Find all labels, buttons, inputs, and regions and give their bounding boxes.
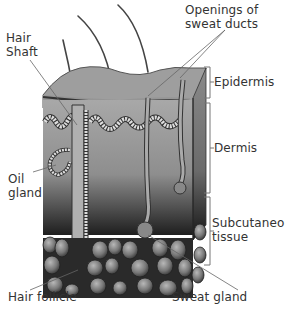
oil-gland: [50, 150, 70, 175]
label-line: Subcutaneous: [212, 216, 285, 230]
label-dermis: Dermis: [214, 141, 257, 155]
label-oil-gland: Oil gland: [8, 172, 42, 200]
label-hair-shaft: Hair Shaft: [6, 31, 38, 59]
label-line: Openings of: [185, 3, 258, 17]
label-sweat-gland: Sweat gland: [172, 290, 247, 304]
label-epidermis: Epidermis: [214, 75, 274, 89]
label-line: gland: [8, 186, 42, 200]
skin-diagram: [0, 0, 285, 310]
label-openings-of-sweat-ducts: Openings of sweat ducts: [185, 3, 258, 31]
label-hair-follicle: Hair follicle: [8, 290, 77, 304]
label-line: tissue: [212, 230, 285, 244]
label-line: Hair: [6, 31, 38, 45]
subcutaneous-fat: [43, 224, 206, 298]
label-line: sweat ducts: [185, 17, 258, 31]
label-line: Shaft: [6, 45, 38, 59]
label-line: Oil: [8, 172, 42, 186]
label-subcutaneous-tissue: Subcutaneous tissue: [212, 216, 285, 244]
